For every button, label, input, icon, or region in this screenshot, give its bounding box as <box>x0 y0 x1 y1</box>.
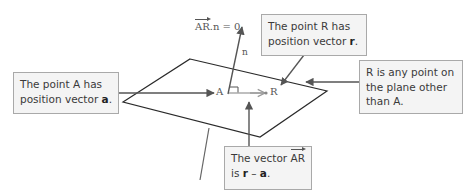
callout-point-r: The point R has position vector r. <box>261 14 367 56</box>
callout-any-point: R is any point on the plane other than A… <box>359 60 463 114</box>
normal-vector-n <box>228 27 242 94</box>
right-angle-marker <box>229 87 238 93</box>
vector-ar-callout-symbol: AR <box>291 151 305 166</box>
vector-plane-diagram: AR.n = 0 n A R The point A has position … <box>0 0 473 194</box>
callout-point-r-line1: The point R has <box>268 19 360 34</box>
callout-any-point-line1: R is any point on <box>366 65 456 80</box>
normal-label: n <box>242 47 248 57</box>
point-r-dot <box>264 91 267 94</box>
leader-line-bottom <box>200 128 209 180</box>
point-r-label: R <box>270 86 278 97</box>
point-a-label: A <box>216 86 223 97</box>
equation-label: AR.n = 0 <box>195 21 240 32</box>
callout-any-point-line2: the plane other <box>366 80 456 95</box>
callout-point-r-line2: position vector r. <box>268 34 360 49</box>
callout-point-a-line2: position vector a. <box>20 92 112 107</box>
callout-any-point-line3: than A. <box>366 94 456 109</box>
callout-vector-ar-line1: The vector AR <box>231 151 305 166</box>
callout-vector-ar: The vector AR is r – a. <box>224 146 312 190</box>
callout-point-a: The point A has position vector a. <box>13 72 119 114</box>
plane-shape <box>123 59 327 137</box>
equation-rest: .n = 0 <box>210 21 241 32</box>
vector-ar-symbol: AR <box>195 21 210 32</box>
arrow-to-point-r <box>281 55 304 85</box>
callout-point-a-line1: The point A has <box>20 77 112 92</box>
callout-vector-ar-line2: is r – a. <box>231 166 305 181</box>
